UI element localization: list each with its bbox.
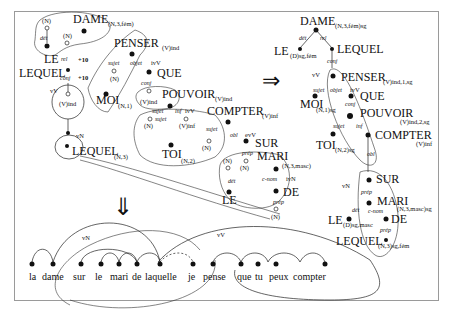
svg-text:(D)sg,masc: (D)sg,masc	[343, 221, 373, 229]
svg-text:(V)ind: (V)ind	[59, 100, 77, 108]
svg-text:dét: dét	[352, 207, 360, 213]
svg-text:TOI: TOI	[316, 138, 336, 152]
svg-text:que: que	[237, 271, 252, 282]
svg-text:c-nom: c-nom	[368, 208, 384, 214]
svg-text:(N): (N)	[223, 157, 232, 165]
svg-text:(D)sg,fém: (D)sg,fém	[290, 52, 317, 60]
svg-text:(V)inf: (V)inf	[416, 140, 433, 148]
svg-text:POUVOIR: POUVOIR	[162, 87, 215, 101]
svg-text:LE: LE	[274, 44, 289, 58]
sentence-graph: vN vV la dame sur le mari de	[29, 223, 380, 308]
svg-text:PENSER: PENSER	[114, 36, 159, 50]
svg-text:(V)ind,1,sg: (V)ind,1,sg	[383, 78, 413, 86]
svg-text:QUE: QUE	[360, 89, 385, 103]
svg-text:sujet: sujet	[313, 87, 325, 93]
svg-text:MOI: MOI	[96, 93, 119, 107]
svg-text:rel: rel	[61, 56, 68, 62]
svg-text:DE: DE	[283, 185, 299, 199]
svg-text:inf: inf	[175, 108, 183, 114]
svg-text:(N,1): (N,1)	[118, 102, 132, 110]
left-graph: (N) dét DAME (N,3,fém) (N) LE rel +10 LE…	[19, 12, 311, 221]
svg-text:compter: compter	[293, 271, 326, 282]
svg-text:SUR: SUR	[255, 136, 278, 150]
svg-text:vN: vN	[82, 234, 90, 241]
svg-text:(N): (N)	[271, 213, 280, 221]
svg-text:ivV: ivV	[151, 59, 161, 66]
svg-text:QUE: QUE	[157, 66, 182, 80]
svg-text:LEQUEL: LEQUEL	[19, 66, 66, 80]
svg-text:tu: tu	[255, 271, 263, 282]
svg-text:prép: prép	[272, 199, 284, 205]
svg-text:sujet: sujet	[206, 126, 218, 132]
svg-text:(N): (N)	[110, 75, 119, 83]
svg-text:(N): (N)	[42, 17, 51, 25]
svg-text:(N): (N)	[202, 144, 211, 152]
svg-text:sujet: sujet	[152, 108, 164, 114]
svg-text:(V)ind: (V)ind	[140, 98, 158, 106]
svg-text:sujet: sujet	[333, 123, 345, 129]
svg-text:rel: rel	[320, 35, 327, 41]
svg-text:(V)inf: (V)inf	[179, 122, 196, 130]
svg-text:la: la	[29, 271, 37, 282]
svg-text:mari: mari	[110, 271, 129, 282]
svg-text:DE: DE	[391, 212, 407, 226]
svg-text:sujet: sujet	[155, 116, 167, 122]
svg-text:(N,1)sg: (N,1)sg	[316, 106, 336, 114]
svg-text:LEQUEL: LEQUEL	[72, 144, 119, 158]
svg-text:peux: peux	[269, 271, 288, 282]
down-arrow: ⇓	[113, 194, 133, 220]
left-node-dame: DAME	[73, 12, 108, 26]
svg-text:SUR: SUR	[376, 172, 399, 186]
svg-text:dét: dét	[40, 35, 48, 41]
svg-text:conj: conj	[60, 75, 71, 81]
svg-text:COMPTER: COMPTER	[207, 104, 264, 118]
svg-text:ivV: ivV	[350, 86, 360, 93]
svg-text:(N): (N)	[63, 32, 72, 40]
svg-text:(N,2): (N,2)	[181, 157, 195, 165]
svg-text:vN: vN	[342, 182, 350, 189]
svg-text:LE: LE	[328, 213, 343, 227]
svg-text:DAME: DAME	[300, 14, 335, 28]
svg-text:LE: LE	[44, 52, 59, 66]
svg-text:(N,3)sg,fém: (N,3)sg,fém	[378, 242, 409, 250]
svg-text:vV: vV	[312, 71, 320, 78]
svg-text:je: je	[187, 271, 196, 282]
svg-text:vV: vV	[217, 231, 225, 238]
svg-text:PENSER: PENSER	[341, 70, 386, 84]
svg-text:laquelle: laquelle	[145, 271, 177, 282]
svg-text:dame: dame	[42, 271, 64, 282]
svg-text:objet: objet	[130, 60, 142, 66]
svg-text:sujet: sujet	[108, 60, 120, 66]
svg-text:LEQUEL: LEQUEL	[336, 234, 383, 248]
svg-text:TOI: TOI	[162, 147, 182, 161]
svg-text:ivN: ivN	[286, 175, 296, 182]
svg-text:(N): (N)	[240, 164, 249, 172]
svg-text:prép: prép	[379, 227, 391, 233]
svg-text:dét: dét	[299, 35, 307, 41]
svg-text:MARI: MARI	[257, 149, 288, 163]
svg-text:conj: conj	[345, 101, 356, 107]
svg-text:objet: objet	[330, 87, 342, 93]
svg-text:conj: conj	[141, 80, 152, 86]
diagram-canvas: (N) dét DAME (N,3,fém) (N) LE rel +10 LE…	[0, 0, 450, 311]
svg-text:ivV: ivV	[185, 107, 195, 114]
svg-text:+10: +10	[78, 74, 88, 81]
svg-text:c-nom: c-nom	[262, 176, 278, 182]
svg-text:prép: prép	[360, 189, 372, 195]
svg-text:prép: prép	[241, 150, 253, 156]
svg-text:(V)ind,2,sg: (V)ind,2,sg	[400, 118, 430, 126]
svg-text:(N): (N)	[144, 122, 153, 130]
svg-text:(V)ind: (V)ind	[162, 44, 180, 52]
svg-text:(V)ind: (V)ind	[215, 95, 233, 103]
svg-text:sur: sur	[73, 271, 86, 282]
svg-text:vN: vN	[76, 132, 84, 139]
svg-text:le: le	[95, 271, 103, 282]
svg-text:(N,3,fém): (N,3,fém)	[108, 20, 134, 28]
right-arrow: ⇒	[262, 68, 280, 93]
svg-text:+10: +10	[78, 56, 88, 63]
svg-text:LEQUEL: LEQUEL	[337, 42, 384, 56]
svg-text:pense: pense	[203, 271, 226, 282]
right-graph: DAME (N,3,fém)sg dét rel LE (D)sg,fém LE…	[274, 14, 433, 257]
svg-text:obl: obl	[230, 132, 238, 138]
svg-text:(N,3,masc): (N,3,masc)	[282, 162, 311, 170]
